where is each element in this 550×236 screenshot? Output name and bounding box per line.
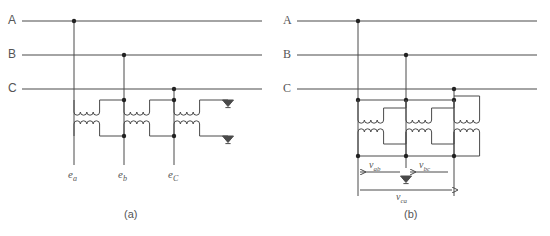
- node-delta-sc: [452, 154, 456, 158]
- emf-label-c: eC: [168, 169, 178, 183]
- bus-label-b-panel-b: B: [283, 48, 291, 60]
- node-delta-sb: [404, 154, 408, 158]
- node-c: [172, 87, 176, 91]
- transformer-b-secondary-b: [406, 129, 454, 156]
- bus-label-b-panel-a: B: [8, 48, 16, 60]
- transformer-c-secondary: [174, 121, 200, 136]
- node-a: [72, 19, 76, 23]
- node-a-b: [356, 19, 360, 23]
- bus-label-a-panel-b: A: [283, 14, 292, 26]
- voltage-subscript-vca: ca: [400, 197, 407, 205]
- voltage-label-vab: vab: [369, 160, 380, 173]
- bus-label-c-panel-b: C: [283, 82, 291, 94]
- transformer-b-secondary: [124, 121, 150, 136]
- figure-canvas: A B C ea eb eC (a) A B C vab vbc vca (b): [0, 0, 550, 236]
- emf-label-b: eb: [118, 169, 127, 183]
- transformer-a-primary-b: [358, 100, 406, 123]
- circuit-diagram-svg: [0, 0, 550, 236]
- transformer-c-secondary-b: [454, 129, 480, 156]
- node-primary-b: [122, 98, 126, 102]
- transformer-a-secondary: [74, 121, 100, 136]
- voltage-subscript-vbc: bc: [423, 165, 430, 173]
- voltage-label-vbc: vbc: [419, 160, 430, 173]
- emf-label-a: ea: [68, 169, 77, 183]
- node-c-b: [452, 87, 456, 91]
- transformer-c-primary: [174, 100, 200, 115]
- ground-symbol-secondary: [223, 136, 234, 144]
- node-secondary-b: [122, 134, 126, 138]
- transformer-b-primary-b: [406, 100, 454, 123]
- panel-a-group: [22, 19, 262, 165]
- emf-subscript-a: a: [73, 174, 77, 183]
- emf-subscript-c: C: [173, 174, 178, 183]
- voltage-subscript-vab: ab: [373, 165, 380, 173]
- voltage-label-vca: vca: [396, 192, 407, 205]
- node-b-b: [404, 53, 408, 57]
- node-b: [122, 53, 126, 57]
- node-delta-sa: [356, 154, 360, 158]
- bus-label-c-panel-a: C: [8, 82, 17, 94]
- transformer-a-primary: [74, 100, 100, 115]
- transformer-b-primary: [124, 100, 150, 115]
- transformer-c-primary-b: [454, 96, 480, 123]
- panel-b-group: [297, 19, 537, 196]
- node-primary-c: [172, 98, 176, 102]
- ground-symbol-center: [401, 176, 412, 184]
- caption-panel-b: (b): [404, 209, 417, 220]
- bus-label-a-panel-a: A: [8, 14, 16, 26]
- emf-subscript-b: b: [123, 174, 127, 183]
- transformer-a-secondary-b: [358, 129, 406, 156]
- ground-symbol-primary: [223, 100, 234, 108]
- node-secondary-c: [172, 134, 176, 138]
- caption-panel-a: (a): [124, 209, 137, 220]
